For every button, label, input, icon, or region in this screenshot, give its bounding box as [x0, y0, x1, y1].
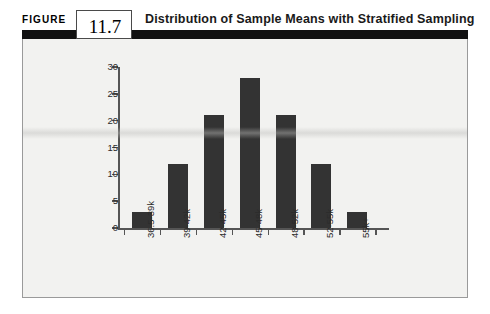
- x-tick-mark: [124, 229, 125, 235]
- figure-container: FIGURE 11.7 Distribution of Sample Means…: [0, 0, 490, 314]
- x-tick-mark: [303, 229, 304, 235]
- y-tick-label-text: 0: [94, 223, 118, 233]
- x-tick-label: 42-45k: [218, 209, 228, 238]
- y-tick-label: 30: [83, 62, 118, 72]
- y-tick-label-text: 20: [94, 116, 118, 126]
- y-tick-label-text: 15: [94, 143, 118, 153]
- y-tick-label-text: 25: [94, 89, 118, 99]
- x-tick-mark: [268, 229, 269, 235]
- y-axis-line: [118, 67, 120, 228]
- x-tick-label: 48-52k: [290, 209, 300, 238]
- y-tick-label: 20: [83, 116, 118, 126]
- x-tick-label: 36.5-39k: [146, 201, 156, 238]
- x-tick-mark: [196, 229, 197, 235]
- x-tick-mark: [160, 229, 161, 235]
- x-tick-label: 55k+: [361, 217, 371, 238]
- y-tick-label-text: 30: [94, 62, 118, 72]
- x-tick-label: 52-55k: [325, 209, 335, 238]
- bar: [240, 78, 260, 228]
- chart-panel: 051015202530 36.5-39k39-42k42-45k45-48k4…: [22, 39, 468, 298]
- x-tick-label: 39-42k: [182, 209, 192, 238]
- x-tick-label: 45-48k: [254, 209, 264, 238]
- x-tick-mark: [339, 229, 340, 235]
- x-tick-mark: [232, 229, 233, 235]
- y-tick-label-text: 10: [94, 169, 118, 179]
- figure-number: 11.7: [77, 11, 133, 40]
- y-tick-label: 15: [83, 143, 118, 153]
- y-tick-label: 5: [83, 196, 118, 206]
- plot-area: 051015202530 36.5-39k39-42k42-45k45-48k4…: [23, 39, 467, 297]
- figure-number-box: 11.7: [76, 10, 132, 39]
- y-tick-label: 25: [83, 89, 118, 99]
- y-tick-label: 10: [83, 169, 118, 179]
- y-tick-label-text: 5: [94, 196, 118, 206]
- figure-label: FIGURE: [22, 14, 66, 26]
- y-tick-label: 0: [83, 223, 118, 233]
- figure-title: Distribution of Sample Means with Strati…: [145, 12, 475, 26]
- x-tick-mark: [375, 229, 376, 235]
